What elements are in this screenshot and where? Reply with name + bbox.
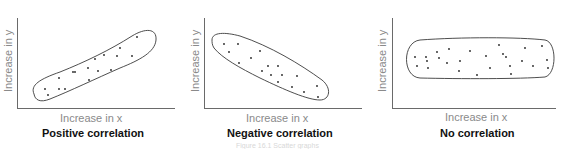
data-point (521, 60, 523, 62)
data-point (250, 57, 252, 59)
data-point (446, 62, 448, 64)
data-point (261, 70, 263, 72)
data-point (58, 88, 60, 90)
data-point (238, 62, 240, 64)
data-point (228, 51, 230, 53)
data-point (296, 75, 298, 77)
x-axis-label: Increase in x (60, 112, 123, 124)
data-point (267, 65, 269, 67)
data-point (498, 44, 500, 46)
data-point (131, 55, 133, 57)
data-point (502, 53, 504, 55)
data-point (546, 59, 548, 61)
chart-title: No correlation (440, 127, 515, 139)
data-point (47, 94, 49, 96)
data-point (316, 85, 318, 87)
data-point (223, 43, 225, 45)
data-point (459, 60, 461, 62)
y-axis-label: Increase in y (189, 29, 201, 92)
data-point (110, 69, 112, 71)
data-point (58, 77, 60, 79)
data-point (541, 45, 543, 47)
data-point (97, 70, 99, 72)
chart-negative-correlation: Increase in y Increase in x Negative cor… (189, 18, 362, 139)
chart-no-correlation: Increase in y Increase in x No correlati… (376, 18, 556, 139)
chart-title: Negative correlation (227, 127, 333, 139)
data-point (489, 67, 491, 69)
data-point (426, 60, 428, 62)
data-points (414, 44, 549, 76)
data-point (458, 70, 460, 72)
data-point (277, 81, 279, 83)
data-point (74, 71, 76, 73)
data-point (425, 56, 427, 58)
data-point (448, 48, 450, 50)
correlation-ellipse (212, 33, 329, 100)
data-point (277, 65, 279, 67)
data-point (524, 47, 526, 49)
data-point (427, 67, 429, 69)
data-point (281, 74, 283, 76)
data-point (476, 74, 478, 76)
data-point (270, 74, 272, 76)
data-point (72, 71, 74, 73)
data-point (103, 54, 105, 56)
data-point (94, 58, 96, 60)
data-point (87, 67, 89, 69)
data-point (317, 96, 319, 98)
data-point (510, 73, 512, 75)
data-point (469, 50, 471, 52)
correlation-figure: Increase in y Increase in x Positive cor… (0, 0, 561, 149)
data-point (532, 65, 534, 67)
data-point (259, 50, 261, 52)
figure-caption: Figure 16.1 Scatter graphs (236, 142, 319, 149)
data-point (509, 65, 511, 67)
data-point (438, 57, 440, 59)
data-point (64, 88, 66, 90)
data-point (237, 43, 239, 45)
data-point (136, 36, 138, 38)
y-axis-label: Increase in y (2, 29, 14, 92)
data-point (44, 88, 46, 90)
correlation-ellipse (33, 30, 156, 100)
data-point (547, 67, 549, 69)
data-point (485, 55, 487, 57)
data-point (88, 79, 90, 81)
data-points (223, 43, 319, 98)
y-axis-label: Increase in y (376, 29, 388, 92)
data-point (416, 65, 418, 67)
data-point (414, 56, 416, 58)
x-axis-label: Increase in x (246, 112, 309, 124)
data-point (436, 51, 438, 53)
data-point (116, 55, 118, 57)
x-axis-label: Increase in x (445, 111, 508, 123)
data-point (303, 91, 305, 93)
data-point (505, 56, 507, 58)
data-point (119, 47, 121, 49)
data-point (291, 86, 293, 88)
chart-title: Positive correlation (42, 127, 144, 139)
chart-positive-correlation: Increase in y Increase in x Positive cor… (2, 18, 175, 139)
correlation-ellipse (407, 38, 555, 79)
